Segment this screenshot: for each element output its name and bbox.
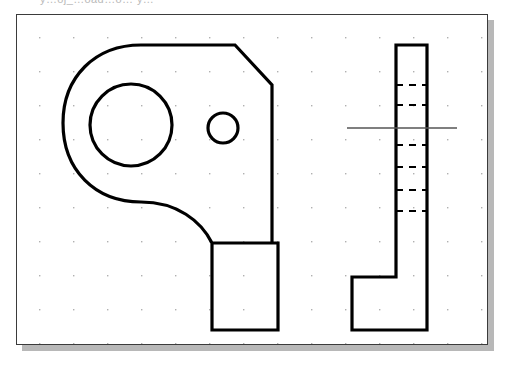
- grid-dot: [311, 37, 312, 38]
- grid-dot: [379, 71, 380, 72]
- grid-dot: [141, 207, 142, 208]
- side-view-hidden-lines: [396, 85, 427, 211]
- side-view-outline: [352, 45, 427, 330]
- grid-dot: [107, 37, 108, 38]
- grid-dot: [73, 207, 74, 208]
- grid-dot: [141, 173, 142, 174]
- grid-dot: [243, 37, 244, 38]
- front-view-outline: [63, 45, 278, 330]
- grid-dot: [175, 139, 176, 140]
- grid-dot: [175, 241, 176, 242]
- grid-dot: [39, 71, 40, 72]
- grid-dot: [481, 37, 482, 38]
- grid-dot: [379, 343, 380, 344]
- grid-dot: [141, 241, 142, 242]
- grid-dot: [379, 241, 380, 242]
- grid-dot: [447, 139, 448, 140]
- grid-dot: [243, 71, 244, 72]
- grid-dot: [481, 71, 482, 72]
- grid-dot: [73, 37, 74, 38]
- grid-dot: [141, 275, 142, 276]
- grid-dot: [73, 343, 74, 344]
- grid-dot: [447, 275, 448, 276]
- grid-dot: [311, 343, 312, 344]
- grid-dot: [209, 343, 210, 344]
- grid-dot: [175, 37, 176, 38]
- grid-dot: [243, 173, 244, 174]
- grid-dot: [243, 105, 244, 106]
- grid-dot: [73, 139, 74, 140]
- grid-dot: [345, 37, 346, 38]
- grid-dot: [107, 207, 108, 208]
- grid-dot: [447, 207, 448, 208]
- grid-dot: [447, 37, 448, 38]
- grid-dot: [243, 343, 244, 344]
- grid-dot: [107, 173, 108, 174]
- grid-dot: [73, 275, 74, 276]
- grid-dot: [175, 173, 176, 174]
- grid-dot: [277, 105, 278, 106]
- grid-dot: [107, 139, 108, 140]
- large-hole: [90, 84, 172, 166]
- grid-dot: [107, 275, 108, 276]
- side-view[interactable]: [352, 45, 427, 330]
- front-view-holes[interactable]: [90, 84, 238, 166]
- small-hole: [208, 113, 238, 143]
- grid-dot: [379, 105, 380, 106]
- front-view[interactable]: [63, 45, 278, 330]
- grid-dot: [413, 139, 414, 140]
- grid-dot: [447, 71, 448, 72]
- grid-dot: [107, 105, 108, 106]
- grid-dot: [413, 241, 414, 242]
- grid-dot: [141, 37, 142, 38]
- grid-dot: [141, 343, 142, 344]
- grid-dot: [447, 173, 448, 174]
- clipped-text: y…oj_…oad…o… y…: [40, 0, 154, 5]
- grid-dot: [209, 105, 210, 106]
- grid-dot: [481, 275, 482, 276]
- drawing-svg: [17, 15, 487, 344]
- grid-dot: [345, 275, 346, 276]
- grid-dot: [345, 71, 346, 72]
- grid-dot: [209, 37, 210, 38]
- grid-dot: [39, 139, 40, 140]
- grid-dot: [311, 207, 312, 208]
- grid-dot: [379, 37, 380, 38]
- grid-dot: [39, 241, 40, 242]
- grid-dot: [277, 343, 278, 344]
- grid-dot: [345, 105, 346, 106]
- grid-dot: [311, 173, 312, 174]
- grid-dot: [311, 275, 312, 276]
- grid-dot: [107, 309, 108, 310]
- grid-dot: [39, 207, 40, 208]
- grid-dot: [345, 241, 346, 242]
- grid-dot: [175, 71, 176, 72]
- grid-dot: [141, 71, 142, 72]
- grid-dot: [345, 207, 346, 208]
- grid-dot: [39, 343, 40, 344]
- grid-dot: [209, 309, 210, 310]
- grid-dot: [311, 309, 312, 310]
- grid-dot: [209, 71, 210, 72]
- grid-dot: [311, 139, 312, 140]
- grid-dot: [379, 139, 380, 140]
- cad-drawing-canvas[interactable]: [16, 14, 488, 345]
- grid-dot: [73, 309, 74, 310]
- grid-dot: [243, 207, 244, 208]
- grid-dot: [413, 173, 414, 174]
- grid-dot: [379, 207, 380, 208]
- grid-dot: [175, 309, 176, 310]
- grid-dot: [39, 275, 40, 276]
- grid-dot: [413, 343, 414, 344]
- grid-dot: [277, 37, 278, 38]
- grid-dot: [209, 207, 210, 208]
- grid-dot: [481, 139, 482, 140]
- grid-dot: [413, 37, 414, 38]
- grid-dot: [73, 241, 74, 242]
- grid-dot: [447, 105, 448, 106]
- grid-dot: [39, 173, 40, 174]
- grid-dot: [73, 71, 74, 72]
- grid-dot: [141, 309, 142, 310]
- grid-dot: [311, 241, 312, 242]
- grid-dot: [39, 105, 40, 106]
